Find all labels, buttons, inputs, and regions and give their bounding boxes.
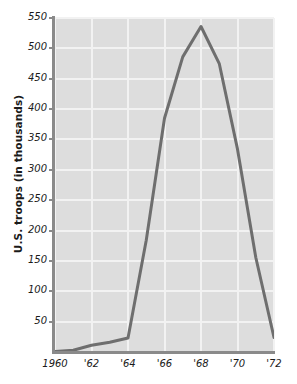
y-tick-label-350: 350 (0, 132, 47, 143)
y-axis-spine (52, 16, 55, 354)
y-tick-label-550: 550 (0, 11, 47, 22)
y-tick-label-250: 250 (0, 193, 47, 204)
line-chart: U.S. troops (in thousands) 5010015020025… (0, 0, 297, 384)
y-tick-mark-300 (49, 169, 53, 171)
y-tick-mark-500 (49, 47, 53, 49)
y-tick-label-200: 200 (0, 224, 47, 235)
y-tick-mark-50 (49, 321, 53, 323)
x-tick-label-1972: '72 (252, 358, 296, 369)
y-tick-label-400: 400 (0, 102, 47, 113)
y-tick-label-150: 150 (0, 254, 47, 265)
y-tick-label-450: 450 (0, 72, 47, 83)
y-tick-mark-450 (49, 78, 53, 80)
y-tick-mark-200 (49, 230, 53, 232)
y-tick-label-500: 500 (0, 41, 47, 52)
x-axis-spine (52, 351, 275, 354)
y-tick-mark-350 (49, 138, 53, 140)
plot-area (55, 18, 274, 352)
y-tick-mark-400 (49, 108, 53, 110)
y-tick-label-300: 300 (0, 163, 47, 174)
y-tick-mark-100 (49, 290, 53, 292)
y-tick-label-100: 100 (0, 284, 47, 295)
y-tick-mark-150 (49, 260, 53, 262)
y-tick-mark-550 (49, 17, 53, 19)
y-tick-label-50: 50 (0, 315, 47, 326)
series-line-us-troops (55, 18, 274, 352)
y-tick-mark-250 (49, 199, 53, 201)
y-axis-tick-labels: 50100150200250300350400450500550 (0, 0, 52, 384)
